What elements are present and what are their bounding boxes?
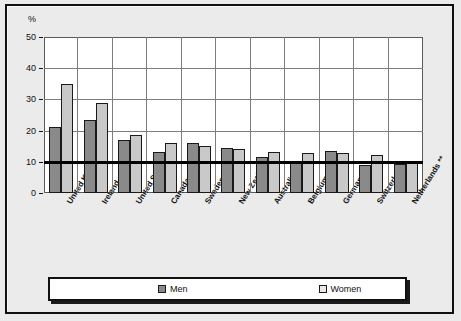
legend-item-women: Women xyxy=(319,284,362,294)
bar-men xyxy=(290,162,302,193)
x-axis-label-cell: Australia ** xyxy=(251,194,285,270)
y-axis-tick-label: 40 xyxy=(10,63,36,73)
bar-group xyxy=(251,37,285,193)
bar-groups xyxy=(44,37,423,193)
x-axis-label-cell: Germany xyxy=(320,194,354,270)
bar-women xyxy=(165,143,177,193)
bar-women xyxy=(130,135,142,193)
legend-item-men: Men xyxy=(158,284,188,294)
bar-women xyxy=(268,152,280,193)
bar-women xyxy=(96,103,108,193)
legend-swatch-women-icon xyxy=(319,285,327,293)
bar-women xyxy=(233,149,245,193)
legend-swatch-men-icon xyxy=(158,285,166,293)
x-axis-label-cell: Sweden ** xyxy=(182,194,216,270)
bar-men xyxy=(118,140,130,193)
x-axis-label-cell: Netherlands ** xyxy=(389,194,423,270)
y-axis-tick-mark xyxy=(39,131,43,132)
legend-label-men: Men xyxy=(170,284,188,294)
bar-women xyxy=(337,153,349,193)
x-axis-label-cell: Canada xyxy=(147,194,181,270)
bar-men xyxy=(187,143,199,193)
bar-group xyxy=(354,37,388,193)
bar-women xyxy=(199,146,211,193)
y-axis-tick-mark xyxy=(39,68,43,69)
bar-men xyxy=(84,120,96,193)
y-axis-tick-label: 50 xyxy=(10,32,36,42)
x-axis-label-cell: United Kingdom xyxy=(44,194,78,270)
y-axis-tick-label: 10 xyxy=(10,157,36,167)
chart-screenshot: % 01020304050 United KingdomIrelandUnite… xyxy=(0,0,461,321)
bar-group xyxy=(320,37,354,193)
reference-line xyxy=(44,161,423,164)
x-axis-label-cell: Switzerland xyxy=(354,194,388,270)
bar-women xyxy=(406,161,418,193)
y-axis-tick-mark xyxy=(39,162,43,163)
bar-group xyxy=(147,37,181,193)
bar-men xyxy=(153,152,165,193)
x-axis-labels: United KingdomIrelandUnited StatesCanada… xyxy=(44,194,423,270)
x-axis-label-cell: New Zealand xyxy=(216,194,250,270)
y-axis-tick-mark xyxy=(39,99,43,100)
bar-men xyxy=(325,151,337,193)
legend-label-women: Women xyxy=(331,284,362,294)
bar-group xyxy=(113,37,147,193)
y-axis-tick-label: 20 xyxy=(10,126,36,136)
bar-group xyxy=(78,37,112,193)
y-axis-tick-mark xyxy=(39,193,43,194)
y-axis-tick-label: 30 xyxy=(10,94,36,104)
bar-group xyxy=(182,37,216,193)
x-axis-label-cell: Belgium * xyxy=(285,194,319,270)
bar-men xyxy=(359,165,371,193)
plot-wrapper xyxy=(44,37,423,193)
x-axis-label-cell: United States xyxy=(113,194,147,270)
y-axis-tick-mark xyxy=(39,37,43,38)
bar-women xyxy=(302,153,314,193)
x-axis-label-cell: Ireland xyxy=(78,194,112,270)
bar-men xyxy=(394,164,406,193)
bar-group xyxy=(285,37,319,193)
bar-women xyxy=(61,84,73,193)
bar-group xyxy=(44,37,78,193)
bar-group xyxy=(389,37,423,193)
bar-group xyxy=(216,37,250,193)
y-axis-unit-label: % xyxy=(28,14,36,24)
chart-legend: Men Women xyxy=(48,277,407,301)
bar-men xyxy=(221,148,233,193)
y-axis-tick-label: 0 xyxy=(10,188,36,198)
